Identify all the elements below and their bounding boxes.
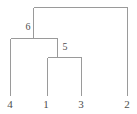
internal-node-label-5: 5 bbox=[63, 41, 68, 52]
tip-label-1: 1 bbox=[43, 99, 49, 110]
tip-label-2: 2 bbox=[124, 99, 130, 110]
dendrogram-canvas bbox=[0, 0, 137, 114]
dendrogram-figure: 413265 bbox=[0, 0, 137, 114]
internal-node-label-6: 6 bbox=[26, 21, 31, 32]
tip-label-4: 4 bbox=[7, 99, 13, 110]
tip-label-3: 3 bbox=[78, 99, 84, 110]
